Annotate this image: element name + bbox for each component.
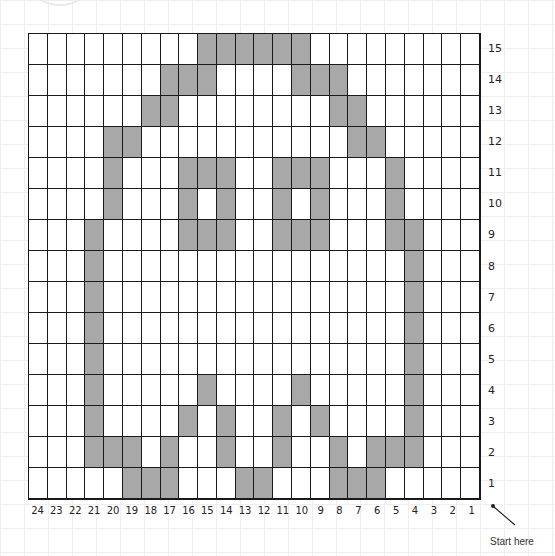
- row-label: 15: [488, 42, 502, 55]
- column-label: 4: [406, 505, 425, 516]
- grid-cell-r14-c13: [236, 65, 255, 96]
- grid-cell-r11-c11: [273, 158, 292, 189]
- grid-cell-r11-c17: [161, 158, 180, 189]
- column-label: 12: [255, 505, 274, 516]
- grid-cell-r3-c19: [123, 406, 142, 437]
- grid-cell-r3-c5: [386, 406, 405, 437]
- grid-cell-r12-c13: [236, 127, 255, 158]
- grid-cell-r15-c11: [273, 34, 292, 65]
- grid-cell-r13-c15: [198, 96, 217, 127]
- grid-cell-r9-c9: [311, 220, 330, 251]
- grid-cell-r5-c14: [217, 344, 236, 375]
- grid-cell-r13-c6: [367, 96, 386, 127]
- grid-cell-r9-c21: [85, 220, 104, 251]
- row-label: 1: [488, 477, 495, 490]
- column-label: 3: [424, 505, 443, 516]
- grid-cell-r8-c9: [311, 251, 330, 282]
- grid-cell-r6-c18: [142, 313, 161, 344]
- grid-cell-r6-c16: [179, 313, 198, 344]
- column-label: 20: [104, 505, 123, 516]
- grid-cell-r9-c20: [104, 220, 123, 251]
- grid-cell-r1-c7: [348, 468, 367, 499]
- grid-cell-r7-c14: [217, 282, 236, 313]
- grid-cell-r2-c12: [254, 437, 273, 468]
- grid-cell-r12-c8: [330, 127, 349, 158]
- column-label: 8: [330, 505, 349, 516]
- grid-cell-r7-c21: [85, 282, 104, 313]
- row-label: 10: [488, 197, 502, 210]
- grid-cell-r4-c4: [405, 375, 424, 406]
- grid-cell-r4-c24: [29, 375, 48, 406]
- grid-cell-r8-c19: [123, 251, 142, 282]
- grid-cell-r5-c13: [236, 344, 255, 375]
- grid-cell-r8-c21: [85, 251, 104, 282]
- grid-cell-r1-c14: [217, 468, 236, 499]
- column-label: 14: [217, 505, 236, 516]
- grid-cell-r8-c23: [48, 251, 67, 282]
- grid-cell-r3-c20: [104, 406, 123, 437]
- grid-cell-r6-c13: [236, 313, 255, 344]
- grid-cell-r2-c13: [236, 437, 255, 468]
- grid-cell-r2-c11: [273, 437, 292, 468]
- grid-cell-r11-c16: [179, 158, 198, 189]
- grid-cell-r4-c6: [367, 375, 386, 406]
- grid-cell-r5-c24: [29, 344, 48, 375]
- grid-cell-r11-c3: [424, 158, 443, 189]
- grid-cell-r5-c19: [123, 344, 142, 375]
- grid-cell-r5-c8: [330, 344, 349, 375]
- grid-cell-r7-c18: [142, 282, 161, 313]
- grid-cell-r4-c7: [348, 375, 367, 406]
- grid-cell-r1-c20: [104, 468, 123, 499]
- grid-cell-r5-c7: [348, 344, 367, 375]
- grid-cell-r13-c23: [48, 96, 67, 127]
- grid-cell-r1-c22: [67, 468, 86, 499]
- row-label: 13: [488, 104, 502, 117]
- grid-cell-r4-c12: [254, 375, 273, 406]
- grid-cell-r7-c4: [405, 282, 424, 313]
- grid-cell-r12-c7: [348, 127, 367, 158]
- start-arrow-icon: [490, 503, 520, 529]
- row-label: 9: [488, 228, 495, 241]
- grid-cell-r13-c7: [348, 96, 367, 127]
- grid-cell-r5-c6: [367, 344, 386, 375]
- grid-cell-r14-c10: [292, 65, 311, 96]
- grid-cell-r8-c22: [67, 251, 86, 282]
- grid-cell-r7-c13: [236, 282, 255, 313]
- grid-cell-r10-c8: [330, 189, 349, 220]
- grid-cell-r6-c17: [161, 313, 180, 344]
- grid-cell-r14-c8: [330, 65, 349, 96]
- grid-cell-r15-c22: [67, 34, 86, 65]
- grid-cell-r9-c10: [292, 220, 311, 251]
- grid-cell-r13-c22: [67, 96, 86, 127]
- grid-cell-r4-c21: [85, 375, 104, 406]
- grid-cell-r3-c22: [67, 406, 86, 437]
- grid-cell-r1-c12: [254, 468, 273, 499]
- grid-cell-r7-c17: [161, 282, 180, 313]
- grid-cell-r2-c2: [442, 437, 461, 468]
- grid-cell-r10-c21: [85, 189, 104, 220]
- grid-cell-r9-c19: [123, 220, 142, 251]
- grid-cell-r10-c11: [273, 189, 292, 220]
- grid-cell-r11-c21: [85, 158, 104, 189]
- grid-cell-r14-c6: [367, 65, 386, 96]
- grid-cell-r11-c13: [236, 158, 255, 189]
- grid-cell-r6-c6: [367, 313, 386, 344]
- grid-cell-r4-c8: [330, 375, 349, 406]
- grid-cell-r14-c17: [161, 65, 180, 96]
- grid-cell-r11-c6: [367, 158, 386, 189]
- grid-cell-r4-c14: [217, 375, 236, 406]
- grid-cell-r3-c13: [236, 406, 255, 437]
- grid-cell-r3-c1: [461, 406, 480, 437]
- grid-cell-r8-c13: [236, 251, 255, 282]
- grid-cell-r15-c23: [48, 34, 67, 65]
- grid-cell-r4-c11: [273, 375, 292, 406]
- grid-cell-r12-c15: [198, 127, 217, 158]
- grid-cell-r11-c9: [311, 158, 330, 189]
- grid-cell-r14-c22: [67, 65, 86, 96]
- grid-cell-r7-c24: [29, 282, 48, 313]
- grid-cell-r8-c20: [104, 251, 123, 282]
- grid-cell-r15-c5: [386, 34, 405, 65]
- grid-cell-r2-c5: [386, 437, 405, 468]
- grid-cell-r1-c1: [461, 468, 480, 499]
- grid-cell-r12-c12: [254, 127, 273, 158]
